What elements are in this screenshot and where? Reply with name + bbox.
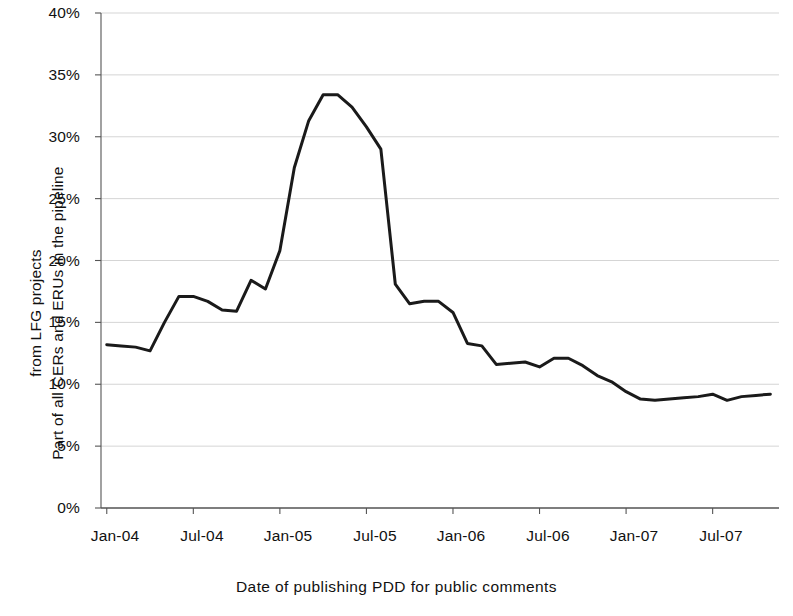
gridlines-group bbox=[101, 13, 779, 508]
line-chart-figure: Part of all CERs and ERUs in the pipelin… bbox=[0, 0, 793, 616]
y-axis-tick-marks bbox=[95, 13, 101, 508]
plot-area bbox=[0, 0, 793, 616]
data-series-line bbox=[107, 95, 771, 401]
x-axis-tick-marks bbox=[107, 508, 713, 514]
